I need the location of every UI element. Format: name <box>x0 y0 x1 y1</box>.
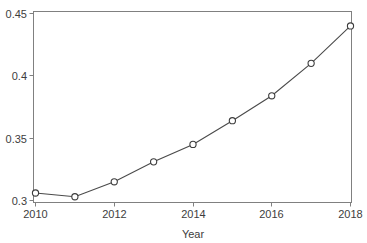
line-chart: 0.45 0.4 0.35 0.3 2010 2012 2014 2016 20… <box>0 0 367 243</box>
data-point <box>308 60 314 66</box>
data-point <box>347 23 353 29</box>
data-point <box>111 179 117 185</box>
y-tick-label: 0.3 <box>12 195 27 207</box>
data-point <box>72 194 78 200</box>
y-axis-ticks <box>30 14 34 201</box>
x-tick-label: 2018 <box>338 208 362 220</box>
plot-frame <box>34 12 352 203</box>
data-point <box>32 190 38 196</box>
data-point <box>190 141 196 147</box>
x-axis-ticks <box>36 203 351 207</box>
x-tick-label: 2014 <box>181 208 205 220</box>
x-tick-label: 2012 <box>102 208 126 220</box>
y-axis-tick-labels: 0.45 0.4 0.35 0.3 <box>6 8 27 207</box>
y-tick-label: 0.45 <box>6 8 27 20</box>
x-tick-label: 2016 <box>259 208 283 220</box>
y-tick-label: 0.35 <box>6 133 27 145</box>
x-axis-tick-labels: 2010 2012 2014 2016 2018 <box>23 208 362 220</box>
data-point <box>151 159 157 165</box>
data-point <box>229 118 235 124</box>
chart-canvas: 0.45 0.4 0.35 0.3 2010 2012 2014 2016 20… <box>0 0 367 243</box>
series-markers <box>32 23 353 200</box>
x-tick-label: 2010 <box>23 208 47 220</box>
y-tick-label: 0.4 <box>12 70 27 82</box>
data-point <box>269 93 275 99</box>
series-line <box>36 26 351 197</box>
x-axis-title: Year <box>182 228 205 240</box>
